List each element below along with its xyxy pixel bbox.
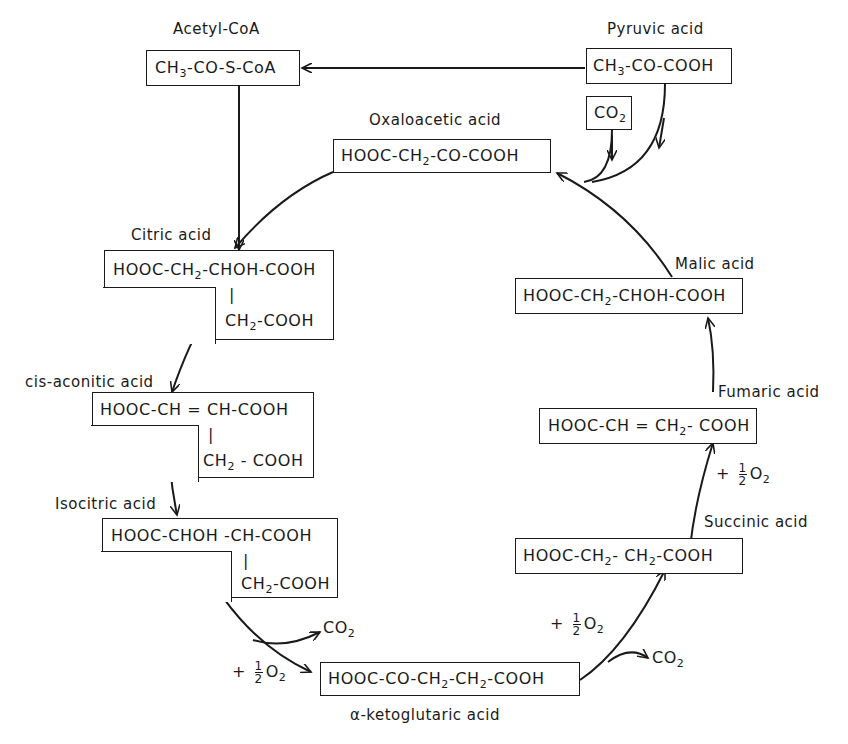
- isocitric-acid-formula-line1: HOOC-CHOH -CH-COOH: [111, 528, 312, 544]
- malic-acid-box: HOOC-CH2-CHOH-COOH: [515, 278, 743, 314]
- pyruvic-acid-formula: CH3-CO-COOH: [593, 58, 714, 74]
- citric-acid-box: HOOC-CH2-CHOH-COOH | CH2-COOH: [104, 250, 334, 340]
- succinic-acid-box: HOOC-CH2- CH2-COOH: [515, 538, 743, 574]
- citric-acid-branch: |: [229, 287, 235, 303]
- half-o2-3: + 12O2: [716, 462, 770, 487]
- fumaric-acid-label: Fumaric acid: [718, 385, 820, 400]
- acetyl-coa-formula: CH3-CO-S-CoA: [155, 60, 276, 76]
- oxaloacetic-acid-label: Oxaloacetic acid: [369, 113, 501, 128]
- half-o2-2: + 12O2: [550, 612, 604, 637]
- cis-aconitic-acid-box: HOOC-CH = CH-COOH | CH2 - COOH: [92, 392, 314, 478]
- citric-acid-formula-line1: HOOC-CH2-CHOH-COOH: [113, 262, 316, 278]
- co2-release-2: CO2: [652, 650, 684, 666]
- oxaloacetic-acid-box: HOOC-CH2-CO-COOH: [333, 139, 551, 173]
- cis-aconitic-acid-branch: |: [208, 427, 214, 443]
- co2-input-formula: CO2: [594, 105, 627, 121]
- citric-acid-label: Citric acid: [131, 228, 212, 243]
- malic-acid-formula: HOOC-CH2-CHOH-COOH: [523, 288, 726, 304]
- succinic-acid-formula: HOOC-CH2- CH2-COOH: [523, 548, 713, 564]
- acetyl-coa-label: Acetyl-CoA: [173, 22, 260, 37]
- succinic-acid-label: Succinic acid: [704, 515, 808, 530]
- pyruvic-acid-box: CH3-CO-COOH: [586, 48, 732, 84]
- half-o2-1: + 12O2: [232, 660, 286, 685]
- alpha-ketoglutaric-acid-box: HOOC-CO-CH2-CH2-COOH: [320, 662, 580, 696]
- cis-aconitic-acid-formula-line1: HOOC-CH = CH-COOH: [100, 402, 289, 418]
- isocitric-acid-label: Isocitric acid: [55, 497, 156, 512]
- isocitric-acid-formula-line2: CH2-COOH: [241, 576, 330, 592]
- cis-aconitic-acid-label: cis-aconitic acid: [25, 375, 154, 390]
- alpha-ketoglutaric-acid-label: α-ketoglutaric acid: [350, 708, 500, 723]
- pyruvic-acid-label: Pyruvic acid: [607, 22, 704, 37]
- fumaric-acid-formula: HOOC-CH = CH2- COOH: [548, 418, 750, 434]
- malic-acid-label: Malic acid: [675, 257, 755, 272]
- citric-acid-formula-line2: CH2-COOH: [225, 313, 314, 329]
- oxaloacetic-acid-formula: HOOC-CH2-CO-COOH: [341, 148, 519, 164]
- isocitric-acid-box: HOOC-CHOH -CH-COOH | CH2-COOH: [102, 518, 338, 598]
- krebs-cycle-diagram: Acetyl-CoA CH3-CO-S-CoA Pyruvic acid CH3…: [0, 0, 848, 744]
- co2-input-box: CO2: [586, 96, 632, 130]
- acetyl-coa-box: CH3-CO-S-CoA: [146, 50, 300, 86]
- co2-release-1: CO2: [323, 620, 355, 636]
- fumaric-acid-box: HOOC-CH = CH2- COOH: [539, 408, 757, 444]
- cis-aconitic-acid-formula-line2: CH2 - COOH: [203, 453, 304, 469]
- alpha-ketoglutaric-acid-formula: HOOC-CO-CH2-CH2-COOH: [328, 671, 545, 687]
- isocitric-acid-branch: |: [243, 553, 249, 569]
